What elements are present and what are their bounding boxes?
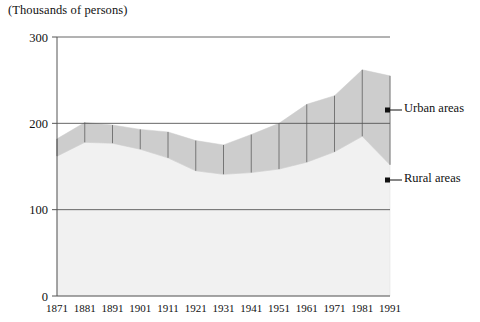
x-tick-label: 1971 <box>324 302 346 314</box>
x-tick-label: 1991 <box>379 302 401 314</box>
x-axis-ticks: 1871188118911901191119211931194119511961… <box>46 302 401 314</box>
x-tick-label: 1911 <box>157 302 179 314</box>
x-tick-label: 1961 <box>296 302 318 314</box>
x-tick-label: 1901 <box>129 302 151 314</box>
x-tick-label: 1921 <box>185 302 207 314</box>
legend-marker-urban <box>385 108 390 113</box>
y-tick-label: 200 <box>29 117 48 131</box>
x-tick-label: 1871 <box>46 302 68 314</box>
x-tick-label: 1951 <box>268 302 290 314</box>
x-tick-label: 1941 <box>240 302 262 314</box>
y-tick-label: 300 <box>29 31 48 45</box>
legend-item-rural: Rural areas <box>404 171 461 186</box>
x-tick-label: 1881 <box>74 302 96 314</box>
x-tick-label: 1981 <box>351 302 373 314</box>
chart-container: (Thousands of persons) 0100200300 187118… <box>0 0 480 322</box>
x-tick-label: 1931 <box>213 302 235 314</box>
y-tick-label: 100 <box>29 203 48 217</box>
y-axis-ticks: 0100200300 <box>29 31 57 304</box>
legend-item-urban: Urban areas <box>404 101 464 116</box>
legend-marker-rural <box>385 178 390 183</box>
stacked-area-chart: 0100200300 18711881189119011911192119311… <box>0 0 480 322</box>
x-tick-label: 1891 <box>102 302 124 314</box>
